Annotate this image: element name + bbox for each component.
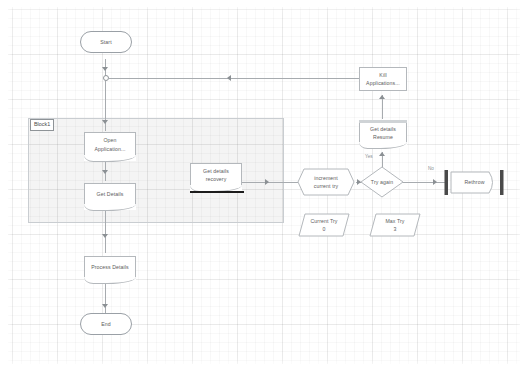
node-open-application-label-2: Application... <box>94 145 125 153</box>
arrowhead-rethrow <box>433 179 437 185</box>
node-end[interactable]: End <box>80 313 132 335</box>
edge-recovery-to-increment <box>242 182 298 183</box>
node-max-try-value: 3 <box>385 225 404 233</box>
node-max-try-label: Max Try <box>385 217 404 225</box>
arrowhead-feedback-left <box>227 75 231 81</box>
screenshot-root: Block1 <box>0 0 528 371</box>
node-get-details-resume[interactable]: Get details Resume <box>359 120 407 144</box>
node-get-details-label: Get Details <box>97 190 124 198</box>
node-start-label: Start <box>100 38 111 46</box>
arrowhead-open-app <box>102 120 108 124</box>
node-end-label: End <box>101 320 111 328</box>
recovery-bottom-bar <box>190 191 244 193</box>
block1-region[interactable] <box>28 118 284 223</box>
arrowhead-end <box>102 304 108 308</box>
arrowhead-resume-up <box>379 152 385 156</box>
node-rethrow-label: Rethrow <box>464 178 484 186</box>
node-get-details[interactable]: Get Details <box>84 183 136 206</box>
node-kill-applications-label-2: Applications... <box>366 79 400 87</box>
arrowhead-increment <box>265 179 269 185</box>
edge-label-yes: Yes <box>365 155 373 160</box>
node-get-details-recovery[interactable]: Get details recovery <box>190 163 242 187</box>
node-current-try-value: 0 <box>310 225 337 233</box>
arrowhead-start-down <box>102 67 108 71</box>
node-current-try-label: Current Try <box>310 217 337 225</box>
node-kill-applications[interactable]: Kill Applications... <box>359 67 407 91</box>
node-open-application-label-1: Open <box>94 136 125 144</box>
node-recovery-label-1: Get details <box>203 167 229 175</box>
node-rethrow[interactable]: Rethrow <box>444 169 504 196</box>
node-process-details[interactable]: Process Details <box>84 256 136 279</box>
edge-label-no: No <box>428 167 434 172</box>
node-increment-label-1: increment <box>314 174 338 182</box>
arrowhead-kill-app-up <box>379 95 385 99</box>
document-wave-get-details <box>84 204 136 210</box>
arrowhead-get-details <box>102 170 108 174</box>
document-wave-process-details <box>84 277 136 283</box>
block1-label: Block1 <box>30 119 54 131</box>
node-current-try[interactable]: Current Try 0 <box>298 213 350 237</box>
node-process-details-label: Process Details <box>91 263 129 271</box>
edge-get-details-to-process <box>105 208 106 253</box>
node-try-again-decision[interactable]: Try again <box>360 166 404 198</box>
node-resume-label-1: Get details <box>370 125 396 133</box>
node-kill-applications-label-1: Kill <box>366 71 400 79</box>
node-start[interactable]: Start <box>80 31 132 53</box>
arrowhead-process-details <box>102 234 108 238</box>
edge-kill-app-to-junction <box>108 78 365 79</box>
document-wave-open-application <box>84 155 136 161</box>
document-wave-resume <box>359 142 407 148</box>
node-recovery-label-2: recovery <box>203 175 229 183</box>
node-try-again-label: Try again <box>371 178 393 186</box>
node-increment-current-try[interactable]: increment current try <box>297 168 355 196</box>
node-resume-label-2: Resume <box>370 133 396 141</box>
node-increment-label-2: current try <box>314 182 338 190</box>
flowchart-canvas[interactable]: Block1 <box>8 7 520 364</box>
node-max-try[interactable]: Max Try 3 <box>369 213 421 237</box>
node-open-application[interactable]: Open Application... <box>84 132 136 157</box>
edge-try-again-no-to-rethrow <box>397 182 447 183</box>
